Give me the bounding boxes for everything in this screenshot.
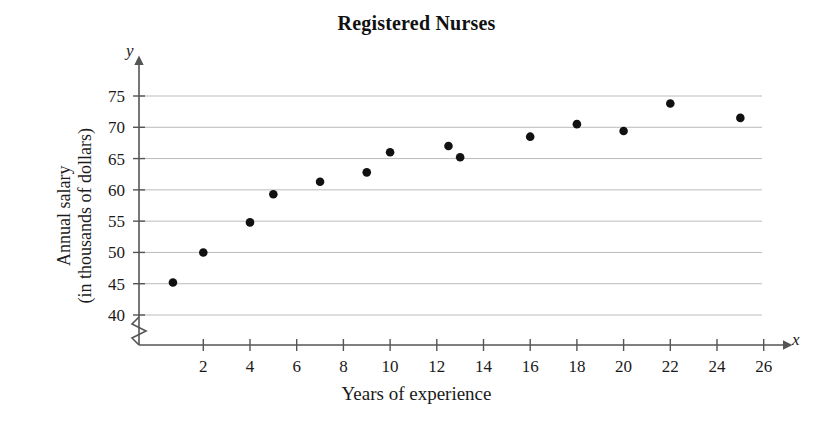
x-tick-label-24: 24 — [709, 357, 727, 376]
y-tick-label-45: 45 — [108, 275, 125, 294]
y-tick-label-60: 60 — [108, 181, 125, 200]
data-point — [386, 148, 395, 157]
data-point — [316, 177, 325, 186]
data-point — [736, 114, 745, 123]
x-tick-label-18: 18 — [568, 357, 585, 376]
y-tick-label-50: 50 — [108, 243, 125, 262]
data-point — [456, 153, 465, 162]
x-tick-label-26: 26 — [755, 357, 772, 376]
data-point — [573, 120, 582, 129]
x-tick-label-20: 20 — [615, 357, 632, 376]
x-tick-label-10: 10 — [382, 357, 399, 376]
data-point — [362, 168, 371, 177]
data-point — [269, 190, 278, 199]
axis-lines — [139, 62, 786, 345]
x-tick-label-2: 2 — [199, 357, 208, 376]
x-tick-label-12: 12 — [428, 357, 445, 376]
plot-area: 4045505560657075 2468101214161820222426 — [0, 0, 833, 432]
data-point — [169, 278, 178, 287]
data-point — [526, 132, 535, 141]
data-point — [619, 127, 628, 136]
y-tick-label-40: 40 — [108, 306, 125, 325]
data-point — [246, 218, 255, 227]
y-tick-label-75: 75 — [108, 87, 125, 106]
scatter-plot-figure: Registered Nurses Annual salary (in thou… — [0, 0, 833, 432]
data-point — [666, 99, 675, 108]
gridlines — [139, 96, 762, 315]
x-tick-label-16: 16 — [522, 357, 539, 376]
x-tick-label-22: 22 — [662, 357, 679, 376]
x-tick-label-6: 6 — [292, 357, 301, 376]
data-point — [444, 142, 453, 151]
y-tick-label-65: 65 — [108, 150, 125, 169]
y-tick-label-55: 55 — [108, 212, 125, 231]
data-point — [199, 248, 208, 257]
y-tick-label-70: 70 — [108, 118, 125, 137]
x-tick-label-4: 4 — [246, 357, 255, 376]
x-tick-label-14: 14 — [475, 357, 493, 376]
x-tick-label-8: 8 — [339, 357, 348, 376]
